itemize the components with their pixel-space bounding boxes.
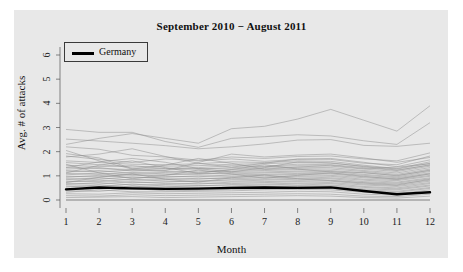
x-tick-label: 11 (387, 217, 407, 227)
x-tick-label: 10 (354, 217, 374, 227)
y-tick-label: 6 (42, 48, 52, 62)
y-tick-label: 1 (42, 169, 52, 183)
legend: Germany (64, 42, 148, 62)
x-tick-label: 6 (221, 217, 241, 227)
x-tick-label: 8 (288, 217, 308, 227)
y-axis-title: Avg. # of attacks (15, 58, 27, 168)
chart-plot-area (0, 0, 463, 272)
x-tick-label: 12 (420, 217, 440, 227)
x-tick-label: 4 (155, 217, 175, 227)
chart-title: September 2010 − August 2011 (0, 20, 463, 32)
x-tick-label: 3 (122, 217, 142, 227)
y-tick-label: 3 (42, 121, 52, 135)
chart-figure: September 2010 − August 2011 Avg. # of a… (0, 0, 463, 272)
x-tick-label: 5 (188, 217, 208, 227)
x-tick-label: 2 (89, 217, 109, 227)
legend-label-germany: Germany (99, 46, 136, 57)
x-tick-label: 1 (56, 217, 76, 227)
x-tick-label: 7 (255, 217, 275, 227)
x-tick-label: 9 (321, 217, 341, 227)
y-tick-label: 0 (42, 193, 52, 207)
y-tick-label: 5 (42, 72, 52, 86)
y-tick-label: 2 (42, 145, 52, 159)
legend-line-swatch-germany (72, 52, 94, 55)
y-tick-label: 4 (42, 96, 52, 110)
x-axis-title: Month (0, 243, 463, 255)
